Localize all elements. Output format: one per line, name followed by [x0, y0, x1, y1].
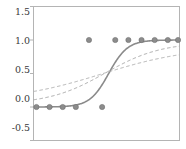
data-point-marker [47, 104, 52, 109]
y-axis-ticks [30, 7, 34, 141]
data-point-marker [165, 37, 170, 42]
data-point-markers [34, 37, 181, 109]
data-point-marker [139, 37, 144, 42]
data-point-marker [34, 104, 39, 109]
fitted-curves [34, 40, 180, 107]
data-point-marker [100, 104, 105, 109]
axes-frame [34, 7, 180, 141]
data-point-marker [60, 104, 65, 109]
curve-curve-dashed-2 [34, 55, 180, 92]
data-point-marker [175, 37, 180, 42]
data-point-marker [113, 37, 118, 42]
data-point-marker [73, 104, 78, 109]
data-point-marker [126, 37, 131, 42]
plot-area [0, 0, 186, 149]
chart-figure: 1.5 1.0 0.5 0.0 -0.5 [0, 0, 186, 149]
data-point-marker [152, 37, 157, 42]
data-point-marker [86, 37, 91, 42]
